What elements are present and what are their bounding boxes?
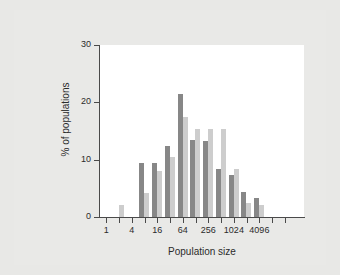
x-tick-mark-major bbox=[234, 218, 235, 223]
bar bbox=[119, 205, 124, 217]
bar bbox=[259, 205, 264, 217]
y-tick-label: 30 bbox=[69, 40, 91, 49]
y-tick-label-text: 10 bbox=[69, 155, 91, 164]
x-tick-mark-major bbox=[106, 218, 107, 223]
figure-container: 0102030 14166425610244096 Population siz… bbox=[0, 0, 340, 275]
x-tick-mark-minor bbox=[145, 218, 146, 223]
y-tick-label: 10 bbox=[69, 155, 91, 164]
y-tick-label-text: 20 bbox=[69, 97, 91, 106]
bar bbox=[195, 129, 200, 217]
y-axis-line bbox=[99, 45, 100, 218]
x-tick-mark-minor bbox=[119, 218, 120, 223]
x-tick-mark-minor bbox=[247, 218, 248, 223]
x-tick-mark-minor bbox=[285, 218, 286, 223]
y-tick-label-text: 30 bbox=[69, 40, 91, 49]
x-tick-mark-major bbox=[208, 218, 209, 223]
bar bbox=[157, 171, 162, 217]
x-axis-title: Population size bbox=[100, 246, 304, 257]
y-tick-mark bbox=[94, 160, 99, 161]
bars-layer bbox=[100, 45, 304, 217]
y-axis-title: % of populations bbox=[60, 60, 71, 180]
x-tick-mark-major bbox=[183, 218, 184, 223]
bar bbox=[234, 169, 239, 217]
x-tick-mark-minor bbox=[272, 218, 273, 223]
bar bbox=[246, 203, 251, 217]
x-tick-label-text: 4096 bbox=[239, 225, 279, 236]
x-tick-label: 4096 bbox=[239, 225, 279, 236]
x-tick-mark-major bbox=[259, 218, 260, 223]
bar bbox=[208, 129, 213, 217]
bar bbox=[221, 129, 226, 217]
y-tick-label-text: 0 bbox=[69, 212, 91, 221]
bar bbox=[183, 117, 188, 217]
bar bbox=[144, 193, 149, 217]
x-axis-line bbox=[99, 217, 305, 218]
figure-canvas: 0102030 14166425610244096 Population siz… bbox=[14, 10, 326, 265]
x-tick-mark-minor bbox=[221, 218, 222, 223]
x-tick-mark-minor bbox=[170, 218, 171, 223]
x-tick-mark-minor bbox=[196, 218, 197, 223]
y-tick-label: 0 bbox=[69, 212, 91, 221]
x-tick-mark-major bbox=[132, 218, 133, 223]
y-tick-mark bbox=[94, 45, 99, 46]
x-tick-mark-major bbox=[157, 218, 158, 223]
bar bbox=[170, 157, 175, 217]
y-tick-mark bbox=[94, 217, 99, 218]
y-tick-label: 20 bbox=[69, 97, 91, 106]
y-tick-mark bbox=[94, 102, 99, 103]
